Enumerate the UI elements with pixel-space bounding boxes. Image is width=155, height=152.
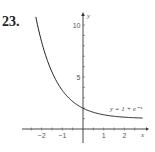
x-axis-label: x	[140, 131, 145, 139]
x-tick-label: −2	[38, 132, 46, 139]
x-tick-label: 2	[122, 132, 126, 139]
x-axis-arrow-icon	[146, 127, 149, 131]
exponential-graph: −2−112510yxy = 1 + e⁻ˣ	[0, 0, 155, 152]
y-axis-label: y	[86, 12, 91, 20]
function-curve	[36, 17, 143, 118]
y-tick-label: 5	[77, 74, 81, 81]
y-axis-arrow-icon	[81, 12, 85, 16]
x-tick-label: 1	[102, 132, 106, 139]
equation-label: y = 1 + e⁻ˣ	[109, 105, 143, 113]
x-tick-label: −1	[58, 132, 66, 139]
y-tick-label: 10	[73, 22, 81, 29]
